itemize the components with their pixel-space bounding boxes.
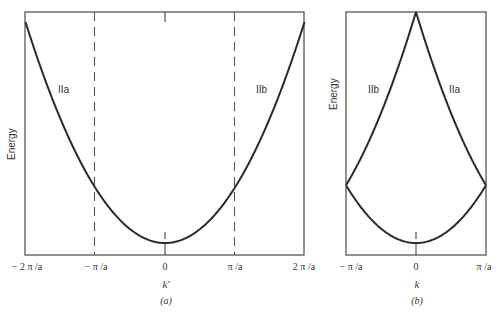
panel-a-branch-label-iib: IIb bbox=[256, 84, 267, 95]
panel-b-branch-label-iib: IIb bbox=[368, 84, 379, 95]
panel-b-frame bbox=[346, 12, 486, 255]
panel-b-tick-minus-pi: − π /a bbox=[340, 261, 363, 272]
panel-a-caption: (a) bbox=[160, 295, 172, 306]
panel-b-caption: (b) bbox=[411, 295, 423, 306]
panel-a-tick-2pi: 2 π /a bbox=[293, 261, 315, 272]
panel-b-x-axis-label: k bbox=[415, 278, 420, 290]
panel-b-tick-zero: 0 bbox=[414, 261, 419, 272]
band-diagram-canvas bbox=[0, 0, 504, 312]
panel-a-tick-minus-pi: − π /a bbox=[85, 261, 108, 272]
panel-a-y-axis-label: Energy bbox=[6, 128, 17, 160]
panel-b-y-axis-label: Energy bbox=[328, 78, 339, 110]
panel-a-tick-pi: π /a bbox=[228, 261, 243, 272]
panel-a-parabola-curve bbox=[26, 22, 305, 243]
panel-b-folded-bands bbox=[346, 12, 486, 243]
panel-a-x-axis-label: k' bbox=[162, 278, 169, 290]
panel-a-tick-zero: 0 bbox=[163, 261, 168, 272]
panel-a-tick-minus-2pi: − 2 π /a bbox=[12, 261, 42, 272]
panel-b-tick-pi: π /a bbox=[477, 261, 492, 272]
panel-b-branch-label-iia: IIa bbox=[449, 84, 460, 95]
panel-a-branch-label-iia: IIa bbox=[58, 84, 69, 95]
